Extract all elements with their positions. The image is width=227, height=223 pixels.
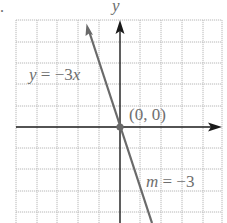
equation-label: y = −3x — [27, 65, 81, 84]
origin-point — [116, 123, 123, 130]
slope-label: m = −3 — [146, 172, 194, 191]
eq-x: x — [72, 65, 81, 84]
eq-y: y — [27, 65, 37, 84]
corner-mark: . — [0, 0, 4, 15]
point-label: (0, 0) — [129, 105, 166, 124]
slope-m: m — [146, 172, 158, 191]
y-axis — [116, 20, 125, 223]
eq-rest: = −3 — [37, 65, 73, 84]
y-axis-label: y — [110, 0, 120, 15]
coordinate-graph: . y y = −3x (0, 0) m = −3 — [0, 0, 227, 223]
slope-rest: = −3 — [158, 172, 194, 191]
